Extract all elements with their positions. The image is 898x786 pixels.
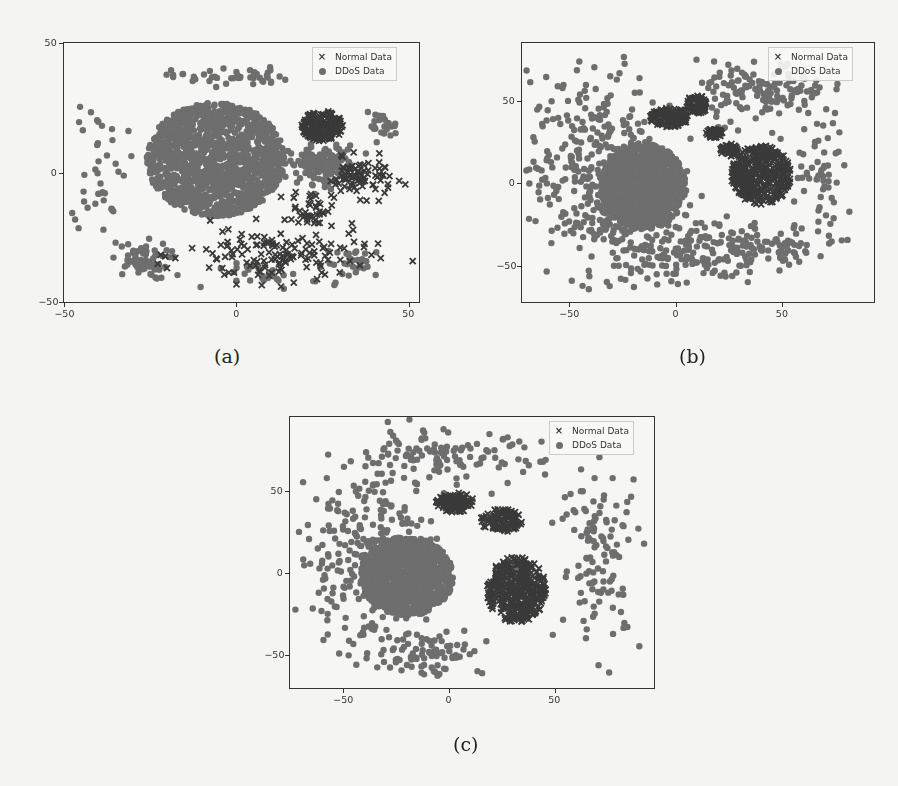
y-tick-label: −50: [264, 649, 284, 660]
x-tick-mark: [449, 689, 450, 693]
y-tick-mark: [59, 302, 63, 303]
x-tick-label: 50: [776, 308, 788, 319]
scatter-plot-c: [290, 417, 654, 688]
x-tick-label: 0: [672, 308, 678, 319]
x-marker-icon: ×: [554, 424, 564, 438]
x-tick-mark: [782, 303, 783, 307]
x-tick-mark: [236, 303, 237, 307]
legend-ddos-label: DDoS Data: [572, 438, 621, 452]
y-tick-label: 50: [271, 485, 283, 496]
panel-c: ×Normal Data DDoS Data (c): [0, 0, 898, 786]
y-tick-mark: [285, 655, 289, 656]
y-tick-mark: [59, 43, 63, 44]
x-tick-label: −50: [333, 694, 353, 705]
y-tick-mark: [285, 491, 289, 492]
plot-frame-c: [289, 416, 655, 689]
x-tick-mark: [676, 303, 677, 307]
x-tick-label: −50: [54, 308, 74, 319]
y-tick-label: 0: [51, 167, 57, 178]
x-tick-label: −50: [559, 308, 579, 319]
x-tick-label: 0: [233, 308, 239, 319]
x-tick-mark: [343, 689, 344, 693]
x-tick-mark: [64, 303, 65, 307]
y-tick-mark: [517, 101, 521, 102]
y-tick-mark: [59, 173, 63, 174]
legend-normal-label: Normal Data: [572, 424, 629, 438]
caption-c: (c): [453, 733, 478, 755]
x-tick-mark: [409, 303, 410, 307]
x-tick-mark: [555, 689, 556, 693]
y-tick-label: 0: [277, 567, 283, 578]
y-tick-mark: [285, 573, 289, 574]
y-tick-label: −50: [38, 296, 58, 307]
legend-c: ×Normal Data DDoS Data: [549, 421, 634, 455]
y-tick-mark: [517, 183, 521, 184]
x-tick-label: 50: [402, 308, 414, 319]
y-tick-label: 0: [509, 177, 515, 188]
circle-marker-icon: [556, 442, 563, 449]
x-tick-mark: [569, 303, 570, 307]
x-tick-label: 50: [548, 694, 560, 705]
y-tick-label: −50: [496, 260, 516, 271]
y-tick-mark: [517, 266, 521, 267]
x-tick-label: 0: [446, 694, 452, 705]
y-tick-label: 50: [503, 95, 515, 106]
y-tick-label: 50: [45, 37, 57, 48]
